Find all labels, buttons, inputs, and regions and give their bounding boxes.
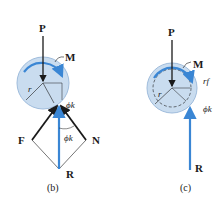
caption-b: (b) (47, 182, 59, 194)
label-phi-k-c: ϕk (203, 104, 213, 114)
label-M-c: M (193, 58, 204, 70)
label-P-c: P (168, 26, 175, 38)
force-F (32, 106, 57, 140)
label-R-b: R (66, 168, 75, 180)
journal-bearing-diagram: M P r ϕk F N ϕk R (b) M P r rf (0, 0, 224, 203)
figure-b: M P r ϕk F N ϕk R (b) (17, 22, 100, 194)
caption-c: (c) (180, 182, 191, 194)
label-P-b: P (39, 22, 46, 34)
figure-c: M P r rf ϕk R (c) (147, 26, 213, 194)
label-R-c: R (195, 162, 204, 174)
label-r-c: r (158, 89, 162, 99)
label-N: N (92, 134, 100, 146)
label-phi-k-lower: ϕk (64, 133, 74, 143)
label-M-b: M (65, 51, 76, 63)
label-F: F (18, 134, 25, 146)
label-r-b: r (28, 84, 32, 94)
label-phi-k-b: ϕk (66, 100, 76, 110)
label-rf: rf (203, 76, 211, 86)
